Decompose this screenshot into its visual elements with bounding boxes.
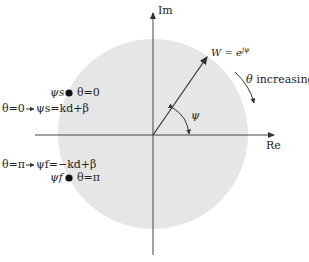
- start-point-dot: [65, 89, 72, 96]
- start-point-dot-label: ψs: [50, 87, 64, 98]
- end-point-dot: [65, 174, 72, 181]
- vector-label-exponent: jψ: [242, 46, 250, 54]
- end-equation-left: θ=π: [2, 159, 25, 170]
- imaginary-axis-label: Im: [158, 5, 173, 16]
- diagram-canvas: [0, 0, 309, 262]
- start-equation-right: ψs=kd+β: [36, 103, 89, 114]
- increasing-text: increasing: [256, 73, 309, 86]
- angle-psi-label: ψ: [191, 110, 200, 121]
- end-point-dot-label: ψf: [50, 172, 63, 183]
- end-point-condition: θ=π: [77, 172, 100, 183]
- phasor-diagram: Im Re W = ejψ ψ θ increasing ψs θ=0 θ=0 …: [0, 0, 309, 262]
- vector-label: W = ejψ: [211, 47, 250, 58]
- vector-label-base: W = e: [211, 47, 242, 58]
- end-equation-right: ψf=−kd+β: [36, 159, 96, 170]
- start-point-condition: θ=0: [77, 87, 100, 98]
- theta-symbol: θ: [246, 73, 253, 86]
- theta-increasing-label: θ increasing: [246, 74, 309, 85]
- real-axis-label: Re: [266, 140, 281, 151]
- start-equation-left: θ=0: [2, 103, 25, 114]
